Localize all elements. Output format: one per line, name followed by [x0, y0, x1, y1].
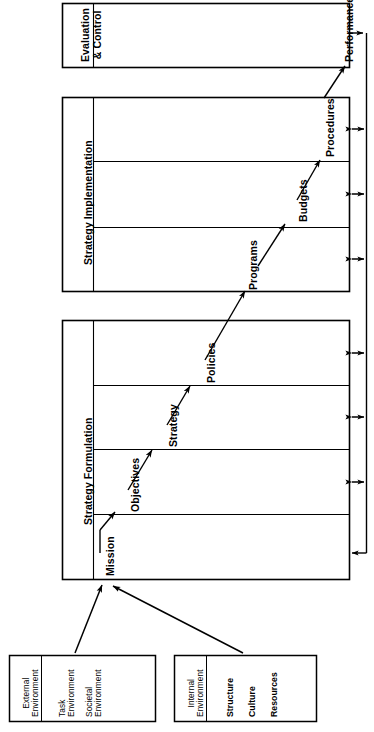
env-item-societal-line2: Environment: [94, 669, 103, 717]
env-header-internal-environment: Internal Environment: [187, 669, 206, 717]
input-arrow-external-to-formulation: [75, 585, 102, 653]
env-item-societal-environment: Societal Environment: [85, 669, 104, 717]
env-item-resources: Resources: [270, 672, 280, 717]
stage-title-strategy-implementation: Strategy Implementation: [83, 140, 95, 265]
element-label-budgets: Budgets: [298, 179, 310, 222]
env-header-internal-line2: Environment: [196, 669, 205, 717]
stage-title-evaluation-control-line2: & Control: [92, 8, 104, 62]
stage-title-evaluation-control-line1: Evaluation: [80, 8, 92, 62]
env-header-external-line2: Environment: [31, 669, 40, 717]
input-arrow-internal-to-formulation: [113, 586, 243, 653]
flow-arrow-procedures-to-performance: [324, 66, 345, 98]
diagram-canvas: Evaluation & Control Strategy Implementa…: [0, 0, 374, 732]
stage-title-evaluation-control: Evaluation & Control: [80, 8, 104, 62]
env-item-task-environment: Task Environment: [58, 669, 77, 717]
element-label-performance: Performance: [344, 0, 356, 62]
env-header-external-environment: External Environment: [22, 669, 41, 717]
element-label-procedures: Procedures: [325, 98, 337, 157]
env-item-structure: Structure: [226, 678, 236, 717]
env-item-culture: Culture: [248, 686, 258, 717]
env-item-task-line2: Environment: [67, 669, 76, 717]
element-label-programs: Programs: [248, 240, 260, 290]
stage-box-evaluation-control: [63, 4, 350, 68]
element-label-objectives: Objectives: [130, 458, 142, 512]
element-label-mission: Mission: [105, 536, 117, 576]
stage-title-strategy-formulation: Strategy Formulation: [83, 417, 95, 525]
feedback-loop-line: [350, 33, 367, 553]
element-label-strategy: Strategy: [168, 404, 180, 447]
diagram-vector-layer: [0, 0, 374, 732]
element-label-policies: Policies: [206, 343, 218, 384]
